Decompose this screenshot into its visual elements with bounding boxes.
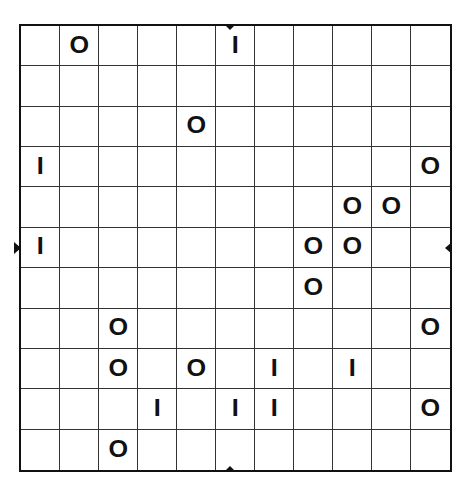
grid-cell-r3-c9[interactable] [333, 107, 372, 147]
grid-cell-r3-c8[interactable] [294, 107, 333, 147]
grid-cell-r1-c7[interactable] [255, 26, 294, 66]
grid-cell-r9-c6[interactable] [216, 349, 255, 389]
grid-cell-r9-c8[interactable] [294, 349, 333, 389]
grid-cell-r8-c10[interactable] [372, 309, 411, 349]
grid-cell-r10-c2[interactable] [60, 389, 99, 429]
grid-cell-r8-c2[interactable] [60, 309, 99, 349]
grid-cell-r4-c8[interactable] [294, 147, 333, 187]
grid-cell-r3-c4[interactable] [138, 107, 177, 147]
grid-cell-r7-c7[interactable] [255, 268, 294, 308]
grid-cell-r8-c3[interactable]: O [99, 309, 138, 349]
grid-cell-r11-c4[interactable] [138, 430, 177, 470]
grid-cell-r7-c10[interactable] [372, 268, 411, 308]
grid-cell-r5-c5[interactable] [177, 187, 216, 227]
grid-cell-r2-c4[interactable] [138, 66, 177, 106]
grid-cell-r9-c5[interactable]: O [177, 349, 216, 389]
grid-cell-r6-c10[interactable] [372, 228, 411, 268]
grid-cell-r11-c10[interactable] [372, 430, 411, 470]
grid-cell-r4-c7[interactable] [255, 147, 294, 187]
grid-cell-r5-c8[interactable] [294, 187, 333, 227]
grid-cell-r9-c3[interactable]: O [99, 349, 138, 389]
grid-cell-r7-c3[interactable] [99, 268, 138, 308]
grid-cell-r6-c9[interactable]: O [333, 228, 372, 268]
grid-cell-r5-c3[interactable] [99, 187, 138, 227]
grid-cell-r10-c7[interactable]: I [255, 389, 294, 429]
grid-cell-r1-c4[interactable] [138, 26, 177, 66]
grid-cell-r1-c8[interactable] [294, 26, 333, 66]
grid-cell-r7-c1[interactable] [21, 268, 60, 308]
grid-cell-r8-c8[interactable] [294, 309, 333, 349]
grid-cell-r3-c7[interactable] [255, 107, 294, 147]
grid-cell-r10-c9[interactable] [333, 389, 372, 429]
grid-cell-r4-c4[interactable] [138, 147, 177, 187]
grid-cell-r3-c10[interactable] [372, 107, 411, 147]
grid-cell-r8-c1[interactable] [21, 309, 60, 349]
grid-cell-r5-c9[interactable]: O [333, 187, 372, 227]
grid-cell-r6-c5[interactable] [177, 228, 216, 268]
grid-cell-r5-c2[interactable] [60, 187, 99, 227]
grid-cell-r2-c6[interactable] [216, 66, 255, 106]
grid-cell-r7-c4[interactable] [138, 268, 177, 308]
grid-cell-r1-c6[interactable]: I [216, 26, 255, 66]
grid-cell-r11-c2[interactable] [60, 430, 99, 470]
grid-cell-r2-c1[interactable] [21, 66, 60, 106]
grid-cell-r3-c3[interactable] [99, 107, 138, 147]
grid-cell-r9-c2[interactable] [60, 349, 99, 389]
grid-cell-r8-c6[interactable] [216, 309, 255, 349]
grid-cell-r1-c5[interactable] [177, 26, 216, 66]
grid-cell-r10-c1[interactable] [21, 389, 60, 429]
grid-cell-r1-c11[interactable] [411, 26, 450, 66]
grid-cell-r8-c7[interactable] [255, 309, 294, 349]
grid-cell-r6-c3[interactable] [99, 228, 138, 268]
grid-cell-r6-c8[interactable]: O [294, 228, 333, 268]
grid-cell-r10-c10[interactable] [372, 389, 411, 429]
grid-cell-r1-c1[interactable] [21, 26, 60, 66]
grid-cell-r3-c11[interactable] [411, 107, 450, 147]
grid-cell-r3-c1[interactable] [21, 107, 60, 147]
grid-cell-r5-c7[interactable] [255, 187, 294, 227]
grid-cell-r3-c5[interactable]: O [177, 107, 216, 147]
grid-cell-r4-c9[interactable] [333, 147, 372, 187]
grid-cell-r8-c11[interactable]: O [411, 309, 450, 349]
grid-cell-r2-c2[interactable] [60, 66, 99, 106]
grid-cell-r9-c7[interactable]: I [255, 349, 294, 389]
grid-cell-r9-c4[interactable] [138, 349, 177, 389]
grid-cell-r5-c10[interactable]: O [372, 187, 411, 227]
grid-cell-r9-c1[interactable] [21, 349, 60, 389]
grid-cell-r10-c6[interactable]: I [216, 389, 255, 429]
grid-cell-r10-c4[interactable]: I [138, 389, 177, 429]
grid-cell-r9-c11[interactable] [411, 349, 450, 389]
grid-cell-r9-c10[interactable] [372, 349, 411, 389]
grid-cell-r11-c1[interactable] [21, 430, 60, 470]
grid-cell-r4-c5[interactable] [177, 147, 216, 187]
grid-cell-r1-c9[interactable] [333, 26, 372, 66]
grid-cell-r11-c6[interactable] [216, 430, 255, 470]
grid-cell-r11-c5[interactable] [177, 430, 216, 470]
grid-cell-r2-c9[interactable] [333, 66, 372, 106]
grid-cell-r5-c6[interactable] [216, 187, 255, 227]
grid-cell-r6-c4[interactable] [138, 228, 177, 268]
grid-cell-r4-c6[interactable] [216, 147, 255, 187]
grid-cell-r2-c8[interactable] [294, 66, 333, 106]
grid-cell-r1-c10[interactable] [372, 26, 411, 66]
grid-cell-r1-c3[interactable] [99, 26, 138, 66]
grid-cell-r5-c4[interactable] [138, 187, 177, 227]
grid-cell-r2-c11[interactable] [411, 66, 450, 106]
grid-cell-r7-c9[interactable] [333, 268, 372, 308]
grid-cell-r2-c3[interactable] [99, 66, 138, 106]
grid-cell-r11-c8[interactable] [294, 430, 333, 470]
grid-cell-r2-c10[interactable] [372, 66, 411, 106]
grid-cell-r7-c2[interactable] [60, 268, 99, 308]
grid-cell-r4-c1[interactable]: I [21, 147, 60, 187]
grid-cell-r11-c11[interactable] [411, 430, 450, 470]
grid-cell-r5-c11[interactable] [411, 187, 450, 227]
grid-cell-r5-c1[interactable] [21, 187, 60, 227]
grid-cell-r6-c1[interactable]: I [21, 228, 60, 268]
grid-cell-r7-c5[interactable] [177, 268, 216, 308]
grid-cell-r4-c11[interactable]: O [411, 147, 450, 187]
grid-cell-r2-c7[interactable] [255, 66, 294, 106]
grid-cell-r8-c4[interactable] [138, 309, 177, 349]
grid-cell-r10-c5[interactable] [177, 389, 216, 429]
grid-cell-r11-c9[interactable] [333, 430, 372, 470]
grid-cell-r1-c2[interactable]: O [60, 26, 99, 66]
